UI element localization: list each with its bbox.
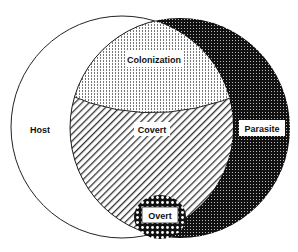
- venn-diagram: Host Colonization Covert Parasite Overt: [0, 0, 298, 252]
- overt-label: Overt: [148, 211, 172, 221]
- covert-label: Covert: [138, 125, 167, 135]
- host-label: Host: [30, 125, 50, 135]
- parasite-label: Parasite: [244, 124, 279, 134]
- colonization-label: Colonization: [127, 55, 181, 65]
